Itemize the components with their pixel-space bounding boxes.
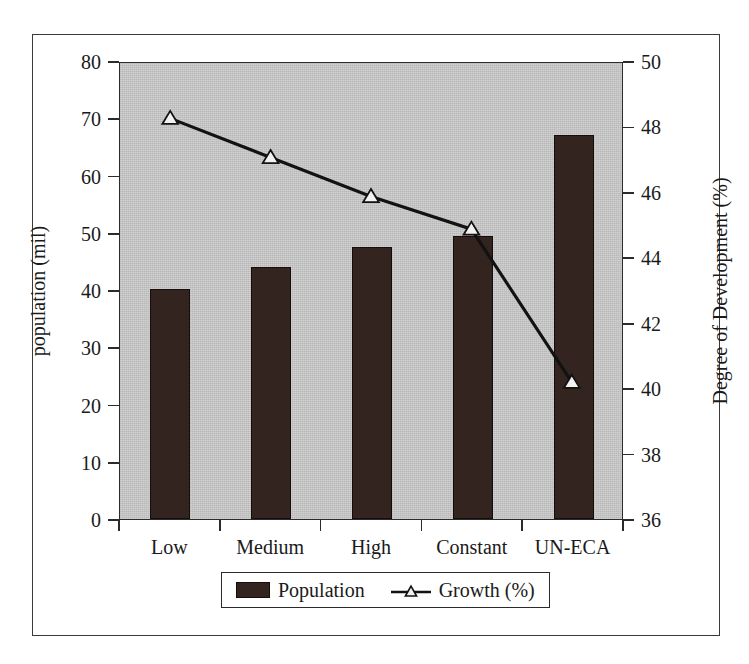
y-right-tick-label: 38 xyxy=(641,445,695,465)
dual-axis-chart: 01020304050607080 3638404244464850 LowMe… xyxy=(33,35,721,637)
y-left-tick-label: 10 xyxy=(47,453,101,473)
y-left-tick-mark xyxy=(108,462,119,464)
x-axis-label-high: High xyxy=(351,537,391,557)
x-axis-tick-mark xyxy=(118,520,120,531)
y-right-tick-label: 50 xyxy=(641,52,695,72)
growth-marker-constant xyxy=(464,222,480,235)
figure-frame: 01020304050607080 3638404244464850 LowMe… xyxy=(32,34,720,636)
legend-item-growth: Growth (%) xyxy=(391,579,535,602)
y-left-tick-mark xyxy=(108,233,119,235)
y-left-tick-label: 50 xyxy=(47,224,101,244)
y-right-tick-mark xyxy=(623,454,634,456)
y-right-tick-mark xyxy=(623,127,634,129)
y-right-tick-mark xyxy=(623,61,634,63)
bar-low xyxy=(150,289,190,519)
plot-area xyxy=(119,62,623,520)
x-axis-label-medium: Medium xyxy=(236,537,304,557)
legend-line-swatch-icon xyxy=(391,582,431,598)
y-left-tick-label: 80 xyxy=(47,52,101,72)
x-axis-tick-mark xyxy=(521,520,523,531)
y-right-tick-label: 48 xyxy=(641,117,695,137)
y-right-tick-mark xyxy=(623,257,634,259)
y-left-tick-label: 60 xyxy=(47,167,101,187)
y-left-tick-mark xyxy=(108,290,119,292)
legend-label-growth: Growth (%) xyxy=(439,579,535,602)
y-left-tick-mark xyxy=(108,176,119,178)
bar-un-eca xyxy=(554,135,594,519)
bar-high xyxy=(352,247,392,519)
bar-constant xyxy=(453,236,493,519)
y-axis-left-title: population (mil) xyxy=(27,226,50,357)
bar-medium xyxy=(251,267,291,519)
legend-label-population: Population xyxy=(278,579,365,602)
legend-line-triangle-icon xyxy=(391,584,431,600)
y-right-tick-label: 46 xyxy=(641,183,695,203)
growth-marker-high xyxy=(363,189,379,202)
x-axis-label-un-eca: UN-ECA xyxy=(535,537,611,557)
y-left-tick-label: 40 xyxy=(47,281,101,301)
y-left-tick-label: 30 xyxy=(47,338,101,358)
y-right-tick-mark xyxy=(623,323,634,325)
growth-marker-low xyxy=(162,111,178,124)
x-axis-label-low: Low xyxy=(151,537,188,557)
legend-item-population: Population xyxy=(236,579,365,602)
y-left-tick-label: 70 xyxy=(47,109,101,129)
legend-bar-swatch-icon xyxy=(236,582,270,598)
y-left-tick-label: 20 xyxy=(47,396,101,416)
x-axis-tick-mark xyxy=(421,520,423,531)
y-right-tick-mark xyxy=(623,192,634,194)
x-axis-tick-mark xyxy=(219,520,221,531)
y-axis-right-title: Degree of Development (%) xyxy=(709,177,732,404)
y-right-tick-label: 44 xyxy=(641,248,695,268)
y-left-tick-label: 0 xyxy=(47,510,101,530)
y-right-tick-mark xyxy=(623,519,634,521)
y-left-tick-mark xyxy=(108,61,119,63)
x-axis-tick-mark xyxy=(622,520,624,531)
y-right-tick-label: 42 xyxy=(641,314,695,334)
y-left-tick-mark xyxy=(108,347,119,349)
y-left-tick-mark xyxy=(108,405,119,407)
x-axis-label-constant: Constant xyxy=(436,537,507,557)
y-right-tick-label: 36 xyxy=(641,510,695,530)
y-right-tick-label: 40 xyxy=(641,379,695,399)
y-right-tick-mark xyxy=(623,388,634,390)
x-axis-tick-mark xyxy=(320,520,322,531)
growth-marker-medium xyxy=(263,150,279,163)
y-left-tick-mark xyxy=(108,118,119,120)
chart-legend: Population Growth (%) xyxy=(221,572,550,608)
